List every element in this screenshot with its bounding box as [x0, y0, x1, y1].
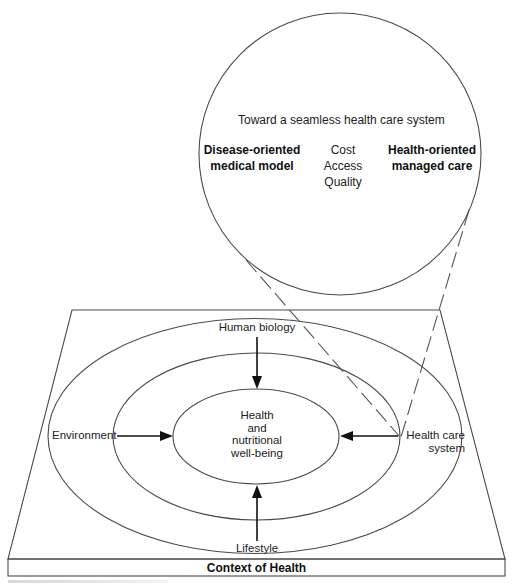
- center-line-2: and: [207, 422, 307, 435]
- arrow-environment-icon: [117, 431, 173, 441]
- health-oriented-line2: managed care: [382, 158, 482, 174]
- zoom-circle-heading: Toward a seamless health care system: [238, 112, 438, 128]
- health-oriented-label: Health-oriented managed care: [382, 142, 482, 174]
- health-care-system-label: Health care system: [403, 429, 465, 454]
- disease-oriented-label: Disease-oriented medical model: [202, 142, 302, 174]
- context-of-health-label: Context of Health: [8, 560, 505, 576]
- center-line-3: nutritional: [207, 434, 307, 447]
- center-line-4: well-being: [207, 447, 307, 460]
- health-context-diagram: [0, 0, 519, 587]
- environment-label: Environment: [52, 429, 116, 442]
- factor-access: Access: [313, 158, 373, 174]
- center-health-label: Health and nutritional well-being: [207, 409, 307, 459]
- factor-quality: Quality: [313, 174, 373, 190]
- system-factors-list: Cost Access Quality: [313, 142, 373, 190]
- health-oriented-line1: Health-oriented: [382, 142, 482, 158]
- human-biology-label: Human biology: [207, 321, 307, 334]
- center-line-1: Health: [207, 409, 307, 422]
- factor-cost: Cost: [313, 142, 373, 158]
- disease-oriented-line2: medical model: [202, 158, 302, 174]
- disease-oriented-line1: Disease-oriented: [202, 142, 302, 158]
- health-care-system-line2: system: [403, 442, 465, 455]
- figure-caption-fragment: [8, 580, 168, 583]
- lifestyle-label: Lifestyle: [217, 542, 297, 555]
- arrow-health-care-system-icon: [340, 431, 398, 441]
- zoom-dashed-line-right: [401, 210, 469, 437]
- health-care-system-line1: Health care: [403, 429, 465, 442]
- arrow-human-biology-icon: [252, 337, 262, 389]
- arrow-lifestyle-icon: [252, 485, 262, 541]
